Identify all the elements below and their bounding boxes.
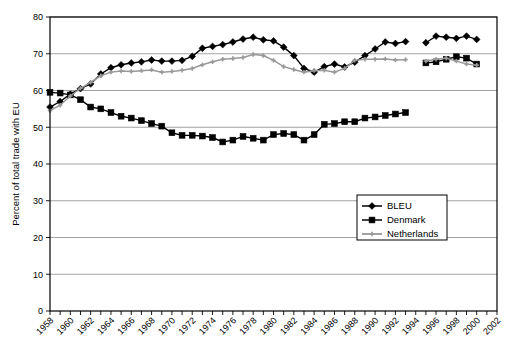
data-point-marker [240, 36, 247, 43]
series-line [50, 92, 406, 142]
data-point-marker [229, 39, 236, 46]
data-series-layer [47, 33, 480, 145]
data-point-marker [250, 34, 257, 41]
x-tick-label: 1982 [278, 315, 299, 336]
x-tick-label: 1990 [359, 315, 380, 336]
y-tick-label: 40 [33, 159, 43, 169]
data-point-marker [159, 123, 165, 129]
data-point-marker [240, 134, 246, 140]
y-tick-label: 60 [33, 86, 43, 96]
data-point-marker [78, 97, 84, 103]
x-tick-label: 1966 [115, 315, 136, 336]
y-tick-label: 50 [33, 123, 43, 133]
legend-label: Netherlands [387, 228, 438, 239]
x-tick-label: 1980 [258, 315, 279, 336]
data-point-marker [301, 137, 307, 143]
data-point-marker [392, 40, 399, 47]
data-point-marker [158, 58, 165, 65]
x-tick-label: 1974 [197, 315, 218, 336]
x-tick-label: 1968 [136, 315, 157, 336]
data-point-marker [291, 132, 297, 138]
x-tick-label: 2000 [461, 315, 482, 336]
data-point-marker [260, 36, 267, 43]
x-tick-label: 2002 [481, 315, 502, 336]
y-axis-title: Percent of total trade with EU [10, 102, 21, 226]
y-tick-label: 20 [33, 233, 43, 243]
data-point-marker [342, 119, 348, 125]
data-point-marker [332, 121, 338, 127]
y-tick-label: 30 [33, 196, 43, 206]
data-point-marker [402, 38, 409, 45]
data-point-marker [321, 121, 327, 127]
x-tick-label: 1986 [319, 315, 340, 336]
data-point-marker [179, 57, 186, 64]
data-point-marker [352, 119, 358, 125]
data-point-marker [88, 104, 94, 110]
y-tick-label: 70 [33, 49, 43, 59]
x-tick-label: 1962 [75, 315, 96, 336]
legend-label: Denmark [387, 214, 426, 225]
data-point-marker [128, 60, 135, 67]
data-point-marker [220, 139, 226, 145]
data-point-marker [260, 137, 266, 143]
data-point-marker [281, 131, 287, 137]
x-tick-label: 1984 [298, 315, 319, 336]
x-tick-label: 1960 [54, 315, 75, 336]
chart-container: 01020304050607080 1958196019621964196619… [0, 0, 519, 355]
data-point-marker [139, 118, 145, 124]
data-point-marker [98, 106, 104, 112]
y-axis-tick-labels: 01020304050607080 [33, 12, 43, 316]
data-point-marker [118, 113, 124, 119]
legend-label: BLEU [387, 200, 412, 211]
data-point-marker [179, 132, 185, 138]
x-tick-label: 1978 [237, 315, 258, 336]
series-line [50, 54, 406, 110]
data-point-marker [393, 111, 399, 117]
y-tick-label: 10 [33, 270, 43, 280]
data-point-marker [149, 121, 155, 127]
data-point-marker [453, 54, 459, 60]
data-point-marker [464, 55, 470, 61]
data-point-marker [463, 33, 470, 40]
x-tick-label: 1976 [217, 315, 238, 336]
data-point-marker [271, 132, 277, 138]
data-point-marker [331, 61, 338, 68]
series-netherlands [48, 52, 479, 113]
data-point-marker [230, 137, 236, 143]
y-tick-label: 80 [33, 12, 43, 22]
x-tick-label: 1994 [400, 315, 421, 336]
data-point-marker [311, 132, 317, 138]
x-tick-label: 1958 [34, 315, 55, 336]
data-point-marker [270, 37, 277, 44]
data-point-marker [169, 130, 175, 136]
data-point-marker [443, 34, 450, 41]
data-point-marker [138, 58, 145, 65]
data-point-marker [108, 110, 114, 116]
data-point-marker [219, 41, 226, 48]
x-tick-label: 1992 [380, 315, 401, 336]
data-point-marker [118, 61, 125, 68]
data-point-marker [403, 110, 409, 116]
x-tick-label: 1998 [441, 315, 462, 336]
x-tick-label: 1964 [95, 315, 116, 336]
y-tick-label: 0 [38, 306, 43, 316]
x-tick-label: 1996 [420, 315, 441, 336]
chart-legend[interactable]: BLEUDenmarkNetherlands [357, 195, 447, 240]
data-point-marker [382, 113, 388, 119]
data-point-marker [189, 132, 195, 138]
series-line [50, 37, 406, 107]
x-axis-tick-labels: 1958196019621964196619681970197219741976… [34, 315, 502, 336]
data-point-marker [169, 58, 176, 65]
data-point-marker [199, 133, 205, 139]
data-point-marker [250, 135, 256, 141]
data-point-marker [210, 135, 216, 141]
x-tick-label: 1970 [156, 315, 177, 336]
data-point-marker [57, 90, 63, 96]
data-point-marker [362, 115, 368, 121]
data-point-marker [473, 36, 480, 43]
line-chart: 01020304050607080 1958196019621964196619… [0, 0, 519, 355]
x-tick-label: 1988 [339, 315, 360, 336]
data-point-marker [369, 217, 375, 223]
data-point-marker [372, 114, 378, 120]
data-point-marker [209, 43, 216, 50]
